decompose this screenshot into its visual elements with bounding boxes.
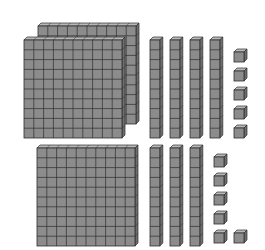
unit-cube xyxy=(214,192,227,205)
flat-block xyxy=(24,37,125,138)
rod-block xyxy=(150,37,163,138)
unit-cube xyxy=(214,230,227,243)
unit-cube xyxy=(234,125,247,138)
unit-cube xyxy=(234,68,247,81)
rod-block xyxy=(170,37,183,138)
rod-block xyxy=(190,37,203,138)
rod-block xyxy=(150,145,163,246)
unit-cube xyxy=(234,87,247,100)
flat-block xyxy=(37,145,138,246)
unit-cube xyxy=(214,173,227,186)
unit-cube xyxy=(234,49,247,62)
unit-cube xyxy=(234,106,247,119)
rod-block xyxy=(170,145,183,246)
unit-cube xyxy=(214,154,227,167)
base-ten-blocks-diagram xyxy=(0,0,265,250)
unit-cube xyxy=(234,230,247,243)
top-group xyxy=(24,23,247,138)
unit-cube xyxy=(214,211,227,224)
bottom-group xyxy=(37,145,247,246)
rod-block xyxy=(210,37,223,138)
rod-block xyxy=(190,145,203,246)
